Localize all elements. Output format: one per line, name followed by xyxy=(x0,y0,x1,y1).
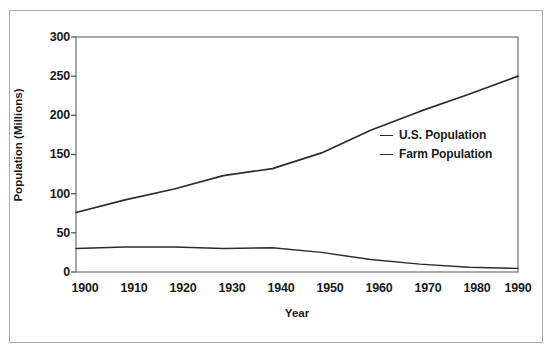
x-tick-label-1950: 1950 xyxy=(305,281,355,295)
legend-item-farm-population: Farm Population xyxy=(380,147,492,161)
y-axis-title: Population (Millions) xyxy=(12,65,24,225)
legend-line-swatch-farm-population xyxy=(380,154,393,155)
x-tick-label-1900: 1900 xyxy=(60,281,110,295)
y-tick-label-0: 0 xyxy=(34,265,70,279)
x-tick-label-1970: 1970 xyxy=(403,281,453,295)
plot-canvas xyxy=(0,0,552,352)
x-tick-label-1910: 1910 xyxy=(109,281,159,295)
x-axis-title: Year xyxy=(76,307,518,319)
y-tick-label-100: 100 xyxy=(34,187,70,201)
x-tick-label-1920: 1920 xyxy=(158,281,208,295)
series-line-farm-population xyxy=(76,247,518,268)
legend-line-swatch-us-population xyxy=(380,135,393,136)
y-tick-label-50: 50 xyxy=(34,226,70,240)
x-tick-label-1960: 1960 xyxy=(354,281,404,295)
legend-label-us-population: U.S. Population xyxy=(399,128,486,142)
series-line-u-s-population xyxy=(76,76,518,212)
legend-label-farm-population: Farm Population xyxy=(399,147,492,161)
y-tick-label-250: 250 xyxy=(34,69,70,83)
y-tick-label-150: 150 xyxy=(34,147,70,161)
chart-figure: 300 250 200 150 100 50 0 1900 1910 1920 … xyxy=(0,0,552,352)
y-tick-label-200: 200 xyxy=(34,108,70,122)
x-tick-label-1990: 1990 xyxy=(493,281,543,295)
y-tick-label-300: 300 xyxy=(34,30,70,44)
data-series-layer xyxy=(76,76,518,268)
x-tick-label-1930: 1930 xyxy=(207,281,257,295)
x-tick-label-1940: 1940 xyxy=(256,281,306,295)
legend-item-us-population: U.S. Population xyxy=(380,128,486,142)
y-tick-marks xyxy=(71,37,76,272)
